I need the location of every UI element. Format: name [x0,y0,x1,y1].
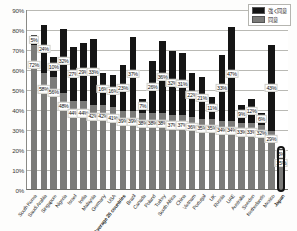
x-axis-label-slot: Canada [138,192,147,231]
bar-value-label: 7% [138,102,148,110]
x-axis-label-slot: Mexico [267,192,276,231]
chart-legend: 強く同意 同意 [248,4,291,26]
bar-segment-strongly-agree: 11% [209,97,216,119]
bar-column[interactable]: 32%37% [168,10,177,189]
bar-segment-agree: 33% [238,123,245,189]
bar-segment-agree: 34% [219,121,226,189]
x-axis-label-slot: Portugal [197,192,206,231]
y-axis-tick-label: 80% [12,27,24,34]
bar-segment-strongly-agree: 32% [169,51,176,115]
bar-column[interactable]: 47%34% [227,10,236,189]
x-axis-label-slot: Average 26 countries [118,192,127,231]
bar-segment-strongly-agree: 43% [268,45,275,131]
bar-segment-agree: 44% [80,101,87,189]
x-axis-label-slot: Netherlands [257,192,266,231]
bar-column[interactable]: 7%38% [138,10,147,189]
bar-segment-agree: 38% [149,113,156,189]
bar-column[interactable]: 36%38% [158,10,167,189]
y-axis-tick-label: 20% [12,147,24,154]
bar-segment-agree: 37% [169,115,176,189]
x-axis-label-slot: Singapore [48,192,57,231]
bar-value-label: 5% [276,150,286,158]
bar-segment-strongly-agree: 6% [258,113,265,125]
y-axis-tick-label: 40% [12,107,24,114]
x-axis-label-slot: Nigeria [58,192,67,231]
bar-value-label: 5% [29,36,39,44]
y-axis-tick-label: 10% [12,167,24,174]
bar-column[interactable]: 16%41% [109,10,118,189]
bar-segment-strongly-agree: 21% [199,77,206,119]
bar-column[interactable]: 10%56% [49,10,58,189]
bar-column[interactable]: 6%32% [257,10,266,189]
y-axis-tick-label: 70% [12,47,24,54]
bar-segment-strongly-agree: 26% [149,61,156,113]
bar-segment-agree: 41% [110,107,117,189]
bar-column[interactable]: 32%48% [59,10,68,189]
bar-segment-strongly-agree: 9% [238,105,245,123]
y-axis-tick-label: 0% [15,187,24,194]
bar-segment-agree: 42% [90,105,97,189]
legend-item-agree: 同意 [252,16,287,23]
x-axis-label-slot: Israel [68,192,77,231]
bar-segment-agree: 44% [70,101,77,189]
y-axis-tick-label: 50% [12,87,24,94]
x-axis-label-slot: Vietnam [187,192,196,231]
bar-column[interactable]: 23%39% [118,10,127,189]
x-axis-label-slot: Russia [217,192,226,231]
bar-column[interactable]: 12%33% [247,10,256,189]
bar-series-group: 5%72%24%58%10%56%32%48%27%44%29%44%33%42… [27,10,288,189]
bar-segment-strongly-agree: 47% [228,27,235,121]
bar-segment-agree: 48% [60,93,67,189]
bar-segment-strongly-agree: 5% [278,149,285,159]
bar-segment-agree: 38% [139,113,146,189]
bar-column[interactable]: 5%15% [277,10,286,189]
x-axis-label-slot: Australia [237,192,246,231]
bar-segment-agree: 56% [50,77,57,189]
bar-segment-strongly-agree: 27% [70,47,77,101]
bar-segment-agree: 37% [179,115,186,189]
bar-segment-agree: 34% [228,121,235,189]
bar-column[interactable]: 29%44% [79,10,88,189]
legend-swatch-icon [252,16,265,23]
y-axis-tick-label: 90% [12,7,24,14]
x-axis-label-slot: South Africa [167,192,176,231]
bar-column[interactable]: 27%44% [69,10,78,189]
bar-column[interactable]: 31%37% [178,10,187,189]
bar-column[interactable]: 37%39% [128,10,137,189]
bar-column[interactable]: 33%34% [217,10,226,189]
bar-column[interactable]: 24%58% [39,10,48,189]
bar-value-label: 6% [256,115,266,123]
x-axis-label-slot: Poland [147,192,156,231]
bar-column[interactable]: 21%35% [198,10,207,189]
bar-column[interactable]: 16%42% [99,10,108,189]
bar-column[interactable]: 33%42% [89,10,98,189]
bar-segment-agree: 38% [159,113,166,189]
y-axis-tick-label: 30% [12,127,24,134]
bar-segment-agree: 33% [248,123,255,189]
bar-segment-agree: 15% [278,159,285,189]
bar-segment-strongly-agree: 23% [120,65,127,111]
bar-segment-agree: 39% [120,111,127,189]
bar-segment-agree: 32% [258,125,265,189]
x-axis-label-slot: Japan [276,192,285,231]
chart-container: 0%10%20%30%40%50%60%70%80%90% 5%72%24%58… [0,0,297,231]
legend-item-strongly-agree: 強く同意 [252,7,287,14]
bar-column[interactable]: 11%35% [207,10,216,189]
x-axis-label-slot: UAE [227,192,236,231]
bar-segment-strongly-agree: 5% [31,35,38,45]
bar-segment-agree: 58% [41,73,48,189]
y-axis-tick-label: 60% [12,67,24,74]
x-axis-labels: South KoreaSaudi ArabiaSingaporeNigeriaI… [26,192,288,231]
bar-segment-agree: 35% [199,119,206,189]
bar-segment-strongly-agree: 33% [219,55,226,121]
bar-column[interactable]: 26%38% [148,10,157,189]
x-axis-label-slot: Brazil [128,192,137,231]
bar-column[interactable]: 9%33% [237,10,246,189]
legend-label: 同意 [268,16,278,23]
x-axis-label-slot: India [78,192,87,231]
legend-swatch-icon [252,7,265,14]
bar-segment-strongly-agree: 16% [100,73,107,105]
bar-segment-strongly-agree: 29% [80,43,87,101]
bar-column[interactable]: 5%72% [29,10,38,189]
bar-segment-strongly-agree: 36% [159,41,166,113]
